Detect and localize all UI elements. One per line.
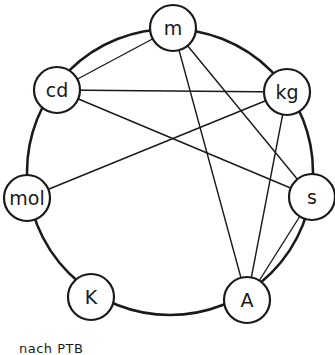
node-label: A bbox=[241, 289, 254, 311]
node-mol: mol bbox=[4, 175, 50, 221]
node-cd: cd bbox=[34, 67, 80, 113]
node-K: K bbox=[68, 274, 114, 320]
node-label: K bbox=[85, 286, 98, 308]
node-label: kg bbox=[275, 81, 298, 103]
source-caption: nach PTB bbox=[19, 341, 83, 355]
node-s: s bbox=[289, 174, 335, 220]
node-label: s bbox=[307, 186, 317, 208]
edge-cd-kg bbox=[57, 90, 287, 92]
node-label: mol bbox=[9, 187, 44, 209]
node-label: cd bbox=[46, 79, 69, 101]
node-A: A bbox=[224, 277, 270, 323]
si-units-diagram: mkgsAKmolcd bbox=[0, 0, 335, 355]
node-label: m bbox=[164, 17, 183, 39]
edge-m-A bbox=[173, 28, 247, 300]
node-kg: kg bbox=[264, 69, 310, 115]
node-m: m bbox=[150, 5, 196, 51]
